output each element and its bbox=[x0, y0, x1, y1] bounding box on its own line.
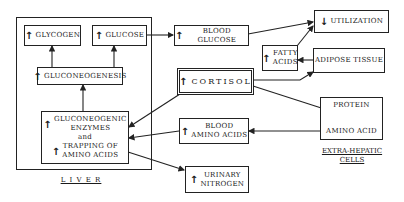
utilization-label: UTILIZATION bbox=[330, 17, 383, 26]
trapping-label-2: AMINO ACIDS bbox=[62, 151, 118, 160]
up-arrow-icon: ↑ bbox=[175, 31, 184, 40]
glycogen-label: GLYCOGEN bbox=[36, 31, 81, 40]
urinary-nitrogen-label-2: NITROGEN bbox=[200, 180, 244, 189]
extrahepatic-cells-box: PROTEIN AMINO ACID bbox=[320, 97, 383, 140]
gluconeogenesis-box: ↑ GLUCONEOGENESIS bbox=[37, 67, 123, 85]
blood-amino-acids-label-1: BLOOD bbox=[191, 122, 247, 131]
cortisol-label: CORTISOL bbox=[191, 77, 251, 86]
up-arrow-icon: ↑ bbox=[262, 54, 271, 63]
blood-glucose-box: ↑ BLOOD GLUCOSE bbox=[174, 25, 249, 46]
up-arrow-icon: ↑ bbox=[33, 72, 42, 81]
protein-label: PROTEIN bbox=[333, 101, 370, 110]
urinary-nitrogen-box: ↑ URINARY NITROGEN bbox=[185, 166, 249, 193]
cortisol-box: ↑ CORTISOL bbox=[177, 68, 254, 95]
extrahepatic-cells-label: EXTRA-HEPATIC CELLS bbox=[318, 147, 386, 165]
glucose-label: GLUCOSE bbox=[105, 31, 144, 40]
down-arrow-icon: ↓ bbox=[320, 17, 329, 26]
enzymes-label-2: ENZYMES bbox=[54, 124, 127, 133]
fatty-acids-label-1: FATTY bbox=[273, 49, 298, 58]
fatty-acids-label-2: ACIDS bbox=[273, 58, 298, 67]
up-arrow-icon: ↑ bbox=[179, 77, 189, 86]
liver-label: L I V E R bbox=[56, 176, 106, 185]
trapping-label-1: TRAPPING OF bbox=[62, 142, 118, 151]
blood-glucose-label: BLOOD GLUCOSE bbox=[186, 27, 248, 45]
urinary-nitrogen-label-1: URINARY bbox=[200, 171, 244, 180]
up-arrow-icon: ↑ bbox=[95, 31, 104, 40]
fatty-acids-box: ↑ FATTY ACIDS bbox=[262, 45, 298, 71]
and-label: and bbox=[78, 133, 92, 142]
adipose-tissue-box: ADIPOSE TISSUE bbox=[313, 48, 385, 73]
blood-amino-acids-label-2: AMINO ACIDS bbox=[191, 131, 247, 140]
gluconeogenesis-label: GLUCONEOGENESIS bbox=[44, 72, 127, 81]
extrahepatic-label-line2: CELLS bbox=[318, 156, 386, 165]
up-arrow-icon: ↑ bbox=[52, 147, 61, 156]
adipose-tissue-label: ADIPOSE TISSUE bbox=[315, 56, 383, 65]
up-arrow-icon: ↑ bbox=[25, 31, 34, 40]
extrahepatic-label-line1: EXTRA-HEPATIC bbox=[318, 147, 386, 156]
up-arrow-icon: ↑ bbox=[181, 127, 190, 136]
blood-amino-acids-box: ↑ BLOOD AMINO ACIDS bbox=[179, 118, 249, 144]
up-arrow-icon: ↑ bbox=[190, 175, 199, 184]
amino-acid-label: AMINO ACID bbox=[326, 127, 377, 136]
enzymes-label-1: GLUCONEOGENIC bbox=[54, 115, 127, 124]
up-arrow-icon: ↑ bbox=[43, 120, 52, 129]
gluconeogenic-enzymes-box: ↑ GLUCONEOGENIC ENZYMES and ↑ TRAPPING O… bbox=[41, 111, 129, 164]
glycogen-box: ↑ GLYCOGEN bbox=[24, 25, 81, 46]
utilization-box: ↓ UTILIZATION bbox=[314, 10, 389, 33]
glucose-box: ↑ GLUCOSE bbox=[92, 25, 147, 46]
